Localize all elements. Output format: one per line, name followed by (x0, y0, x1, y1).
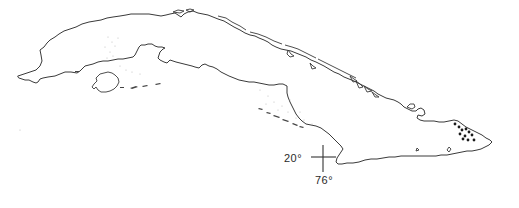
cay (266, 112, 271, 114)
locality-dot (467, 139, 470, 142)
north-cays (310, 63, 316, 69)
isla-de-la-juventud-outline (92, 72, 119, 92)
cay (273, 115, 280, 118)
stipple-pattern (19, 36, 312, 130)
cay (282, 119, 289, 122)
bay-detail (416, 148, 419, 151)
cay (299, 126, 304, 128)
bay-detail (407, 104, 415, 109)
locality-dot (465, 128, 468, 131)
north-cays (218, 16, 246, 30)
locality-dot (464, 135, 467, 138)
cay (75, 71, 79, 72)
locality-dot (454, 123, 457, 126)
locality-dot (461, 129, 464, 132)
cay (292, 123, 298, 126)
cay (130, 86, 138, 89)
cuba-outline-map (0, 0, 519, 208)
map-figure: 20° 76° (0, 0, 519, 208)
locality-dot (471, 134, 474, 137)
graticule-crosshair (311, 145, 336, 172)
cuba-coastline (18, 11, 492, 164)
bay-detail (447, 147, 451, 152)
locality-dot (462, 138, 465, 141)
north-cays (186, 9, 194, 12)
north-cays (173, 10, 184, 13)
locality-dot (459, 133, 462, 136)
locality-dot (458, 126, 461, 129)
longitude-label: 76° (315, 175, 333, 186)
locality-dot (473, 139, 476, 142)
locality-dot (468, 131, 471, 134)
north-cays (318, 59, 356, 78)
cay (120, 87, 124, 88)
north-cays (250, 32, 282, 44)
latitude-label: 20° (284, 153, 302, 164)
cay (155, 83, 161, 85)
cay (142, 85, 148, 87)
cay (258, 108, 263, 110)
